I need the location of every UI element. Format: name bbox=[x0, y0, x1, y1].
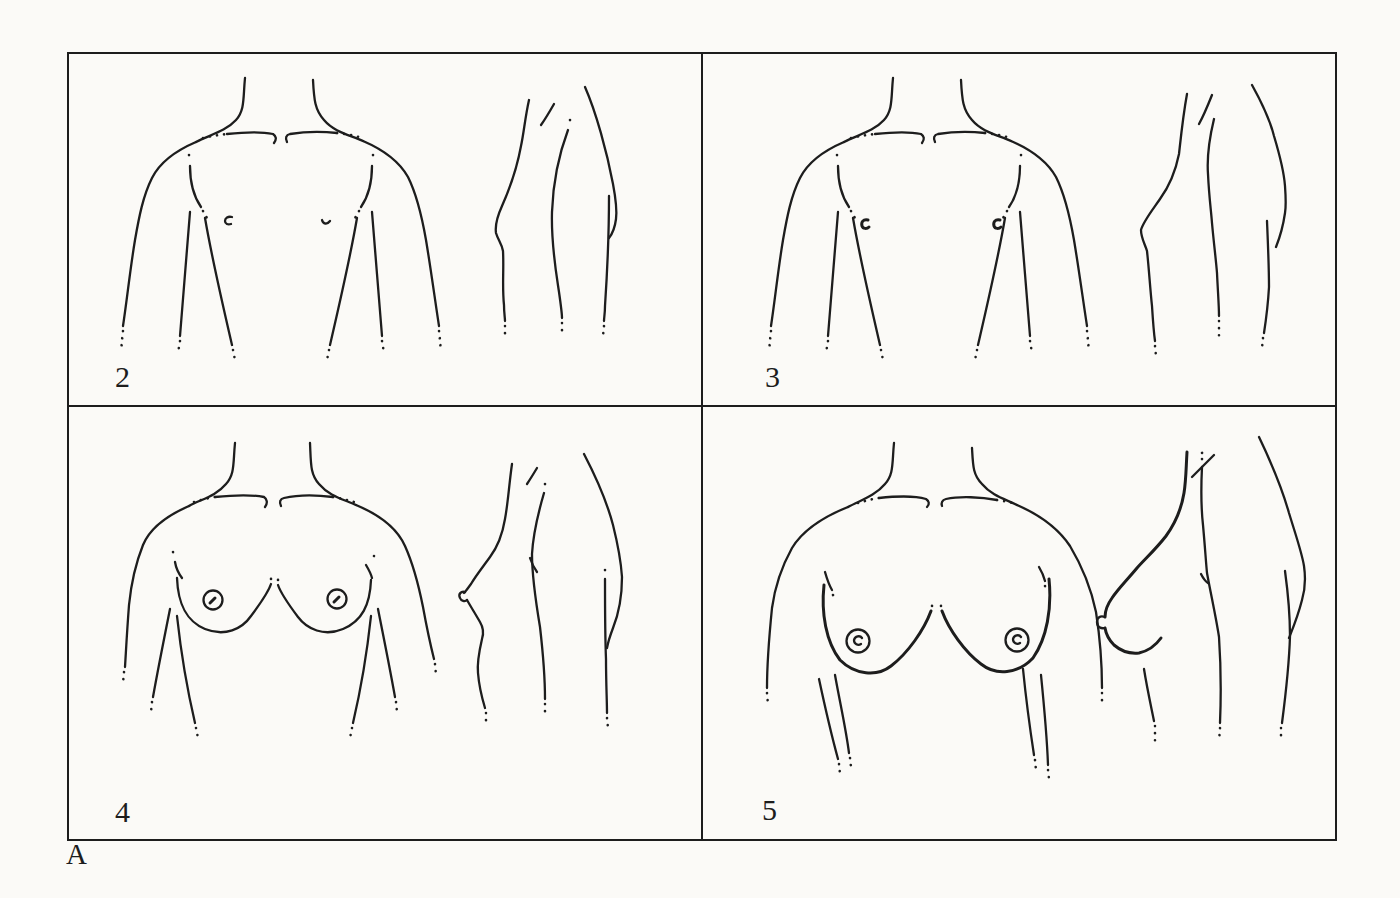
panel-stage-3: 3 bbox=[703, 54, 1335, 405]
grid-divider-vertical bbox=[701, 54, 703, 839]
panel-number-label: 5 bbox=[762, 795, 777, 825]
side-view-drawing bbox=[496, 87, 617, 336]
stage-3-illustration bbox=[703, 54, 1335, 405]
front-view-drawing bbox=[123, 443, 436, 738]
medical-figure-page: 2 bbox=[0, 0, 1400, 898]
panel-number-label: 3 bbox=[765, 362, 780, 392]
side-view-drawing bbox=[1097, 437, 1305, 742]
front-view-drawing bbox=[769, 78, 1089, 360]
panel-stage-4: 4 bbox=[69, 407, 701, 839]
front-view-drawing bbox=[121, 78, 441, 360]
grid-divider-horizontal bbox=[69, 405, 1335, 407]
figure-part-label: A bbox=[66, 840, 87, 869]
front-view-drawing bbox=[767, 443, 1102, 779]
panel-stage-2: 2 bbox=[69, 54, 701, 405]
panel-stage-5: 5 bbox=[703, 407, 1335, 839]
panel-number-label: 4 bbox=[115, 797, 130, 827]
panel-number-label: 2 bbox=[115, 362, 130, 392]
side-view-drawing bbox=[1141, 85, 1286, 356]
stage-5-illustration bbox=[703, 407, 1335, 839]
stage-4-illustration bbox=[69, 407, 701, 839]
figure-panel-grid: 2 bbox=[67, 52, 1337, 841]
side-view-drawing bbox=[459, 454, 622, 728]
stage-2-illustration bbox=[69, 54, 701, 405]
